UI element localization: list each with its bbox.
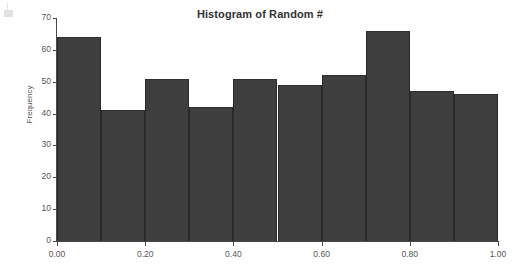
histogram-bar [322,75,366,241]
x-tick-label: 0.20 [137,249,154,259]
y-tick-label: 30 [42,139,51,149]
histogram-bar [366,31,410,241]
x-tick-mark [145,242,146,246]
x-tick-mark [322,242,323,246]
histogram-bar [145,79,189,241]
y-tick-label: 50 [42,76,51,86]
histogram-bar [189,107,233,241]
x-axis-line [56,241,499,242]
plot-area: 010203040506070 0.000.200.400.600.801.00 [57,18,498,241]
x-tick-label: 0.00 [49,249,66,259]
histogram-chart: Histogram of Random # Frequency 01020304… [0,0,520,269]
y-tick-label: 0 [46,235,51,245]
x-tick-label: 1.00 [490,249,507,259]
y-tick-label: 60 [42,44,51,54]
y-tick-mark [53,18,57,19]
y-tick-label: 70 [42,12,51,22]
x-tick-label: 0.80 [402,249,419,259]
x-tick-mark [410,242,411,246]
y-axis-title: Frequency [25,70,34,140]
histogram-bar [233,79,277,241]
y-tick-label: 10 [42,203,51,213]
histogram-bar [454,94,498,241]
histogram-bar [410,91,454,241]
y-tick-label: 20 [42,171,51,181]
x-tick-mark [57,242,58,246]
histogram-bar [57,37,101,241]
x-tick-mark [498,242,499,246]
y-tick-label: 40 [42,108,51,118]
histogram-bar [278,85,322,241]
histogram-bar [101,110,145,241]
x-tick-mark [233,242,234,246]
x-tick-label: 0.40 [225,249,242,259]
x-tick-label: 0.60 [313,249,330,259]
